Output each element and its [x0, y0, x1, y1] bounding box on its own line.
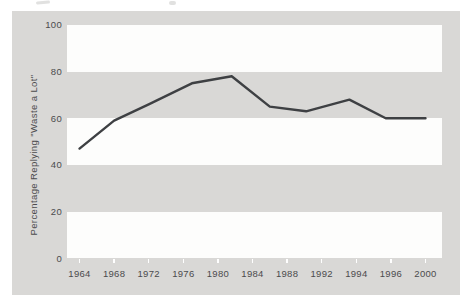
- x-tick-mark: [148, 259, 150, 264]
- x-tick-mark: [79, 259, 81, 264]
- x-tick-label: 1968: [98, 268, 130, 279]
- plot-area: [0, 0, 468, 303]
- x-tick-label: 1994: [340, 268, 372, 279]
- x-tick-mark: [390, 259, 392, 264]
- y-tick-label: 100: [34, 19, 62, 30]
- y-tick-label: 0: [34, 253, 62, 264]
- x-tick-label: 1972: [133, 268, 165, 279]
- x-tick-label: 1988: [271, 268, 303, 279]
- x-tick-label: 1996: [375, 268, 407, 279]
- x-tick-label: 1992: [306, 268, 338, 279]
- y-tick-label: 20: [34, 206, 62, 217]
- x-tick-label: 1976: [167, 268, 199, 279]
- x-tick-mark: [286, 259, 288, 264]
- chart-figure: Percentage Replying "Waste a Lot" 020406…: [0, 0, 468, 303]
- y-tick-label: 80: [34, 66, 62, 77]
- x-tick-mark: [356, 259, 358, 264]
- x-tick-label: 1984: [237, 268, 269, 279]
- x-tick-mark: [113, 259, 115, 264]
- x-tick-mark: [425, 259, 427, 264]
- y-tick-label: 40: [34, 159, 62, 170]
- x-tick-mark: [217, 259, 219, 264]
- y-tick-label: 60: [34, 113, 62, 124]
- x-tick-mark: [321, 259, 323, 264]
- x-tick-label: 1980: [202, 268, 234, 279]
- x-tick-label: 2000: [410, 268, 442, 279]
- x-tick-label: 1964: [64, 268, 96, 279]
- x-tick-mark: [252, 259, 254, 264]
- x-tick-mark: [183, 259, 185, 264]
- line-series: [80, 76, 426, 148]
